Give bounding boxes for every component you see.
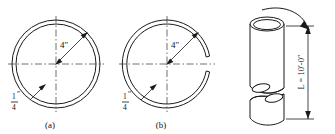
length-dim-arrow-bottom xyxy=(305,111,311,119)
panel-a-diameter-label: 4″ xyxy=(60,40,69,50)
panel-b-thickness-numerator: 1 xyxy=(123,92,127,101)
panel-b-caption: (b) xyxy=(156,120,167,130)
panel-a-thickness-unit: ″ xyxy=(17,90,20,99)
panel-b-thickness-leader xyxy=(141,84,157,100)
panel-a-thickness-numerator: 1 xyxy=(12,92,16,101)
panel-a-thickness-fraction: 1 ″ 4 xyxy=(11,90,20,112)
panel-a-thickness-denominator: 4 xyxy=(12,103,16,112)
panel-a-thickness-leader xyxy=(30,84,46,100)
panel-a-caption: (a) xyxy=(45,120,55,130)
panel-a-group: 4″ 1 ″ 4 (a) xyxy=(8,16,104,130)
engineering-figure: 4″ 1 ″ 4 (a) 4″ xyxy=(0,0,335,134)
panel-b-diameter-label: 4″ xyxy=(171,40,180,50)
panel-b-thickness-denominator: 4 xyxy=(123,103,127,112)
tube-upper-body xyxy=(250,24,284,93)
panel-b-group: 4″ 1 ″ 4 (b) xyxy=(119,16,215,130)
length-dim-label: L = 10′-0″ xyxy=(296,54,306,89)
panel-b-thickness-fraction: 1 ″ 4 xyxy=(122,90,131,112)
panel-b-thickness-unit: ″ xyxy=(128,90,131,99)
length-dimension: L = 10′-0″ xyxy=(286,26,314,119)
panel-c-group: L = 10′-0″ xyxy=(250,8,314,125)
